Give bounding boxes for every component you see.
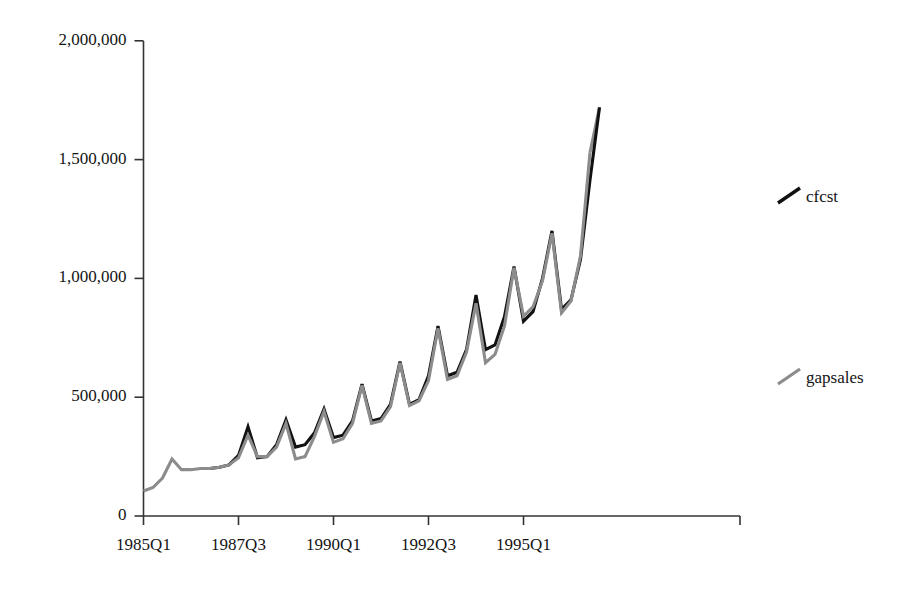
x-axis-tick-label: 1985Q1 (94, 535, 194, 555)
y-axis-tick-label: 1,000,000 (9, 267, 127, 287)
axes (144, 41, 741, 516)
legend-marker-gapsales (778, 369, 800, 384)
legend-marker-cfcst (778, 188, 800, 203)
legend-label-gapsales: gapsales (806, 368, 864, 388)
y-axis-tick-label: 2,000,000 (9, 30, 127, 50)
legend-markers (778, 188, 800, 384)
chart-figure: 2,000,0001,500,0001,000,000500,0000 1985… (0, 0, 924, 590)
x-axis-ticks (144, 516, 741, 525)
x-axis-tick-label: 1995Q1 (474, 535, 574, 555)
legend-label-cfcst: cfcst (806, 187, 838, 207)
x-axis-tick-label: 1987Q3 (189, 535, 289, 555)
y-axis-ticks (135, 41, 144, 516)
x-axis-tick-label: 1992Q3 (379, 535, 479, 555)
line-chart-canvas (0, 0, 924, 590)
x-axis-tick-label: 1990Q1 (284, 535, 384, 555)
data-series-group (144, 107, 600, 491)
y-axis-tick-label: 500,000 (9, 386, 127, 406)
y-axis-tick-label: 0 (9, 505, 127, 525)
y-axis-tick-label: 1,500,000 (9, 149, 127, 169)
